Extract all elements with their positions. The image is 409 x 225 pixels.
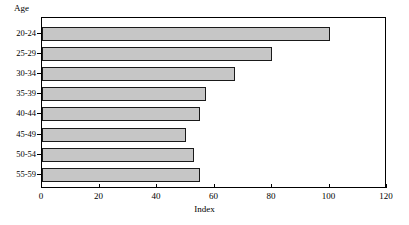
category-tick xyxy=(37,53,41,54)
bar-25-29 xyxy=(42,47,272,61)
category-label-30-34: 30-34 xyxy=(0,68,36,78)
category-label-55-59: 55-59 xyxy=(0,169,36,179)
bar-row xyxy=(42,87,387,101)
category-label-35-39: 35-39 xyxy=(0,88,36,98)
bar-row xyxy=(42,47,387,61)
category-tick xyxy=(37,113,41,114)
category-label-50-54: 50-54 xyxy=(0,149,36,159)
bar-row xyxy=(42,27,387,41)
bar-row xyxy=(42,67,387,81)
bar-row xyxy=(42,148,387,162)
x-tick-label-100: 100 xyxy=(322,191,336,201)
x-tick xyxy=(329,184,330,188)
x-tick xyxy=(271,184,272,188)
bar-row xyxy=(42,107,387,121)
category-tick xyxy=(37,174,41,175)
x-tick-label-40: 40 xyxy=(152,191,161,201)
bar-30-34 xyxy=(42,67,235,81)
y-axis-title: Age xyxy=(14,3,29,13)
x-tick xyxy=(41,184,42,188)
category-tick xyxy=(37,73,41,74)
x-tick xyxy=(214,184,215,188)
plot-area xyxy=(41,17,386,188)
category-tick xyxy=(37,33,41,34)
category-label-45-49: 45-49 xyxy=(0,129,36,139)
x-tick xyxy=(156,184,157,188)
bar-row xyxy=(42,128,387,142)
category-tick xyxy=(37,93,41,94)
bars-container xyxy=(42,18,385,187)
category-label-20-24: 20-24 xyxy=(0,28,36,38)
category-tick xyxy=(37,134,41,135)
x-tick-label-20: 20 xyxy=(94,191,103,201)
category-label-40-44: 40-44 xyxy=(0,108,36,118)
x-tick-label-60: 60 xyxy=(209,191,218,201)
x-tick-label-120: 120 xyxy=(379,191,393,201)
category-tick xyxy=(37,154,41,155)
bar-50-54 xyxy=(42,148,194,162)
bar-35-39 xyxy=(42,87,206,101)
x-axis-title: Index xyxy=(0,204,409,214)
bar-45-49 xyxy=(42,128,186,142)
x-tick xyxy=(99,184,100,188)
bar-55-59 xyxy=(42,168,200,182)
bar-20-24 xyxy=(42,27,330,41)
bar-row xyxy=(42,168,387,182)
category-label-25-29: 25-29 xyxy=(0,48,36,58)
x-tick xyxy=(386,184,387,188)
bar-40-44 xyxy=(42,107,200,121)
x-tick-label-80: 80 xyxy=(267,191,276,201)
x-tick-label-0: 0 xyxy=(39,191,44,201)
bar-chart: Age 20-2425-2930-3435-3940-4445-4950-545… xyxy=(0,0,409,225)
